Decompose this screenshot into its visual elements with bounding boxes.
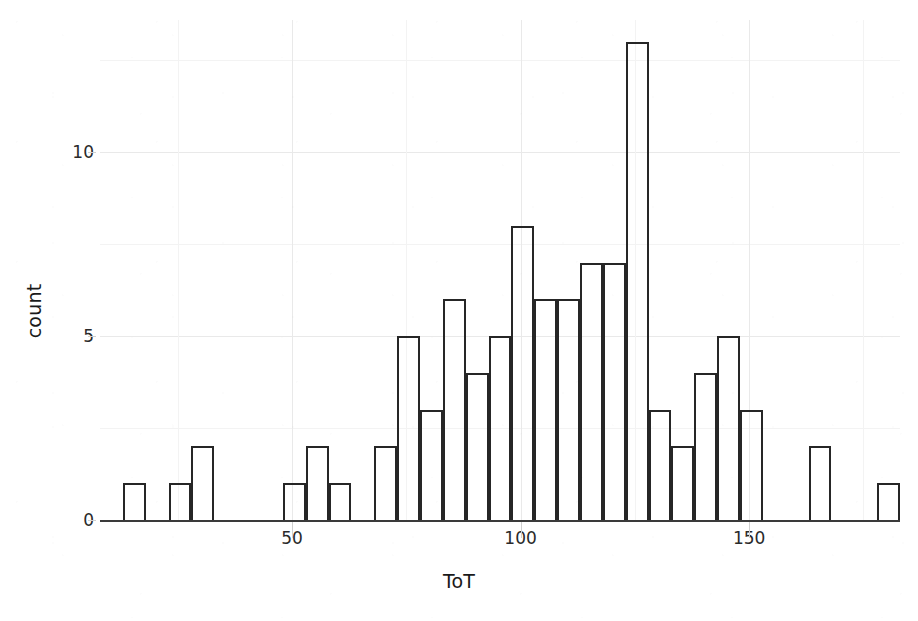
histogram-bar — [603, 263, 626, 522]
histogram-bar — [283, 483, 306, 522]
histogram-bar — [306, 446, 329, 522]
histogram-bar — [511, 226, 534, 522]
histogram-bar — [420, 410, 443, 522]
histogram-bar — [397, 336, 420, 522]
plot-area — [100, 20, 900, 520]
histogram-bar — [169, 483, 192, 522]
histogram-bar — [717, 336, 740, 522]
histogram-bar — [626, 42, 649, 522]
histogram-bar — [443, 299, 466, 522]
x-axis-tick-mark — [521, 522, 522, 538]
histogram-bar — [649, 410, 672, 522]
gridline-vertical-major — [292, 20, 293, 520]
histogram-bar — [466, 373, 489, 522]
gridline-horizontal-minor — [100, 244, 900, 245]
gridline-vertical-minor — [178, 20, 179, 520]
histogram-bar — [809, 446, 832, 522]
histogram-bar — [671, 446, 694, 522]
x-axis-line — [100, 520, 900, 522]
y-axis-tick-mark — [88, 520, 96, 521]
x-axis-tick-mark — [749, 522, 750, 538]
x-axis-title-text: ToT — [443, 570, 475, 592]
histogram-bar — [694, 373, 717, 522]
histogram-bar — [877, 483, 900, 522]
gridline-horizontal-minor — [100, 60, 900, 61]
gridline-horizontal-major — [100, 152, 900, 153]
histogram-bar — [374, 446, 397, 522]
x-axis-title: ToT — [0, 570, 918, 592]
y-axis-tick-mark — [88, 336, 96, 337]
histogram-bar — [329, 483, 352, 522]
y-axis-tick-label: 10 — [42, 142, 94, 162]
histogram-bar — [489, 336, 512, 522]
y-axis-tick-label: 0 — [42, 510, 94, 530]
histogram-bar — [580, 263, 603, 522]
histogram-bar — [740, 410, 763, 522]
histogram-bar — [191, 446, 214, 522]
histogram-chart: count 0510 50100150 ToT — [0, 0, 918, 621]
y-axis-tick-labels: 0510 — [32, 0, 94, 621]
y-axis-tick-label: 5 — [42, 326, 94, 346]
histogram-bar — [557, 299, 580, 522]
gridline-vertical-minor — [863, 20, 864, 520]
histogram-bar — [123, 483, 146, 522]
y-axis-tick-mark — [88, 152, 96, 153]
x-axis-tick-mark — [292, 522, 293, 538]
histogram-bar — [534, 299, 557, 522]
